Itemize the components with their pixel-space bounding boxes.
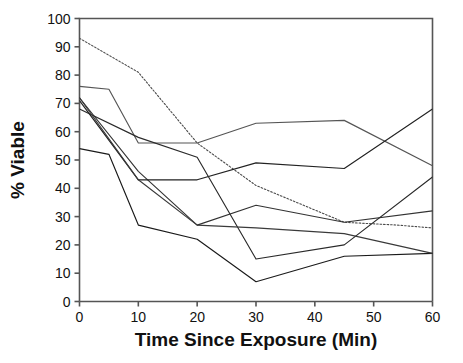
line-chart-svg: 01020304050607080901000102030405060 Time… bbox=[0, 0, 463, 363]
y-tick-label: 70 bbox=[55, 95, 71, 111]
data-line-series-6 bbox=[80, 149, 433, 282]
chart-figure: 01020304050607080901000102030405060 Time… bbox=[0, 0, 463, 363]
y-tick-label: 100 bbox=[47, 11, 71, 27]
x-tick-label: 10 bbox=[131, 309, 147, 325]
x-tick-label: 60 bbox=[425, 309, 441, 325]
y-tick-label: 30 bbox=[55, 209, 71, 225]
x-tick-label: 20 bbox=[189, 309, 205, 325]
x-tick-label: 40 bbox=[307, 309, 323, 325]
y-tick-label: 90 bbox=[55, 39, 71, 55]
x-tick-label: 30 bbox=[248, 309, 264, 325]
y-tick-label: 80 bbox=[55, 67, 71, 83]
y-tick-label: 50 bbox=[55, 152, 71, 168]
data-line-series-4 bbox=[80, 101, 433, 180]
data-line-series-2 bbox=[80, 86, 433, 165]
y-axis-title: % Viable bbox=[7, 121, 28, 199]
y-tick-label: 20 bbox=[55, 237, 71, 253]
y-tick-label: 40 bbox=[55, 180, 71, 196]
ticks-group: 01020304050607080901000102030405060 bbox=[47, 11, 440, 325]
data-lines-group bbox=[80, 38, 433, 281]
y-tick-label: 10 bbox=[55, 265, 71, 281]
y-tick-label: 0 bbox=[63, 294, 71, 310]
x-tick-label: 50 bbox=[366, 309, 382, 325]
data-line-series-7 bbox=[80, 98, 433, 254]
y-tick-label: 60 bbox=[55, 124, 71, 140]
x-axis-title: Time Since Exposure (Min) bbox=[135, 329, 377, 350]
x-tick-label: 0 bbox=[76, 309, 84, 325]
data-line-series-3 bbox=[80, 98, 433, 225]
